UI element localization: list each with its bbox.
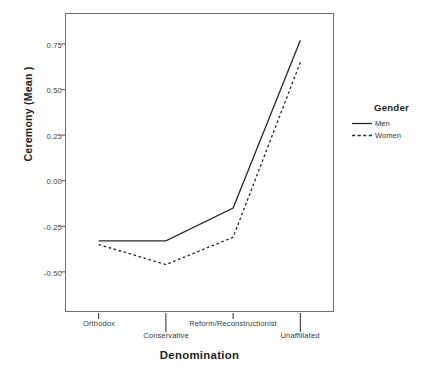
legend-label-men: Men — [375, 119, 390, 128]
chart-figure: 0.75 0.50 0.25 0.00 -0.25 -0.50 Ceremony… — [0, 0, 431, 375]
x-tick-label-unaffiliated: Unaffiliated — [280, 331, 319, 340]
legend-label-women: Women — [375, 131, 401, 140]
y-tick-label: -0.25 — [20, 222, 62, 231]
x-tick-label-conservative: Conservative — [143, 331, 189, 340]
x-tick-label-orthodox: Orthodox — [83, 319, 115, 328]
x-tick-label-reform: Reform/Reconstructionist — [189, 319, 277, 328]
legend-title: Gender — [352, 102, 431, 113]
x-axis-title: Denomination — [65, 349, 334, 361]
y-axis-title: Ceremony (Mean ) — [22, 14, 34, 214]
y-axis: 0.75 0.50 0.25 0.00 -0.25 -0.50 — [8, 0, 62, 375]
legend-swatch-solid — [352, 119, 372, 128]
legend-item-men: Men — [352, 118, 431, 129]
plot-area — [65, 13, 334, 312]
y-tick-label: -0.50 — [20, 268, 62, 277]
legend-swatch-dotted — [352, 131, 372, 140]
legend-item-women: Women — [352, 130, 431, 141]
legend: Gender Men Women — [352, 102, 431, 142]
